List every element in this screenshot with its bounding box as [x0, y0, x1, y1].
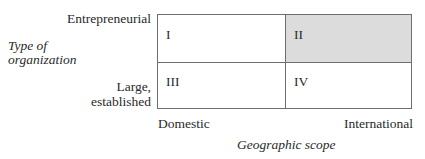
x-axis-right-label: International [344, 116, 413, 131]
horizontal-divider [158, 62, 411, 63]
quadrant-i-label: I [166, 27, 171, 42]
quadrant-ii-label: II [294, 27, 303, 42]
quadrant-iv: IV [286, 63, 411, 108]
y-axis-title-line1: Type of [8, 38, 47, 53]
quadrant-ii-highlighted: II [286, 15, 411, 62]
quadrant-iii: III [158, 63, 285, 108]
x-axis-left-label: Domestic [158, 116, 210, 131]
matrix-grid: I II III IV [157, 14, 412, 109]
y-axis-bottom-label-line1: Large, [116, 79, 151, 94]
quadrant-iii-label: III [166, 74, 180, 89]
quadrant-iv-label: IV [294, 74, 308, 89]
quadrant-i: I [158, 15, 285, 62]
y-axis-title-line2: organization [8, 52, 77, 67]
y-axis-top-label: Entrepreneurial [67, 11, 151, 26]
x-axis-title: Geographic scope [237, 137, 336, 152]
y-axis-bottom-label-line2: established [91, 94, 151, 109]
